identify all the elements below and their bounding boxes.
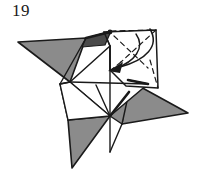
bottom-point-shaded [68,116,110,168]
origami-figure [0,0,205,180]
origami-diagram-page: 19 [0,0,205,180]
left-point-shaded [18,38,86,82]
